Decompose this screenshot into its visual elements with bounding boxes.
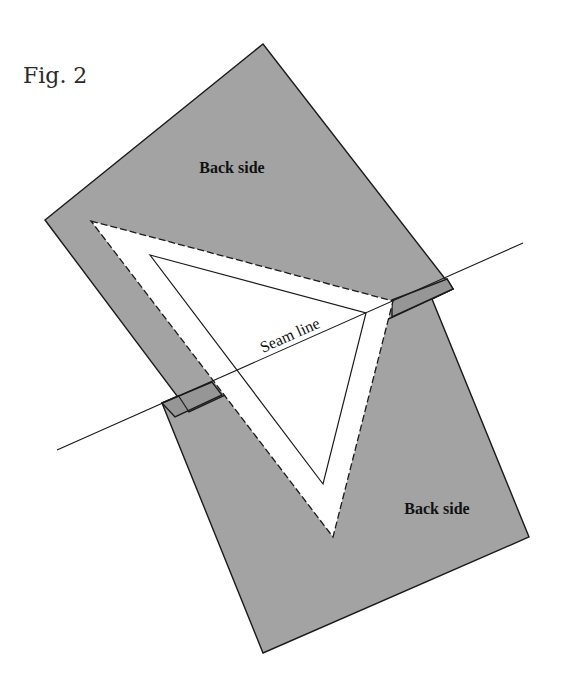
sewing-figure: Fig. 2 Back side Back side Seam line <box>0 0 565 694</box>
figure-title: Fig. 2 <box>23 63 87 88</box>
back-side-label-top: Back side <box>199 159 264 176</box>
back-side-label-bottom: Back side <box>404 500 469 517</box>
